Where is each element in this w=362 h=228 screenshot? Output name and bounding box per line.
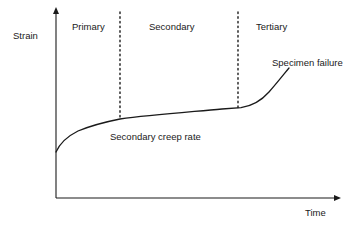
x-axis (56, 195, 341, 201)
annotation-specimen-failure: Specimen failure (272, 58, 343, 68)
x-axis-label: Time (305, 208, 326, 218)
x-axis-arrowhead (334, 195, 341, 201)
annotation-secondary-creep-rate: Secondary creep rate (110, 132, 201, 142)
y-axis (53, 7, 59, 198)
stage-label-primary: Primary (72, 22, 105, 32)
stage-label-tertiary: Tertiary (256, 22, 287, 32)
creep-curve-figure: Strain Time Primary Secondary Tertiary S… (0, 0, 362, 228)
y-axis-arrowhead (53, 7, 59, 14)
creep-curve-svg (0, 0, 362, 228)
y-axis-label: Strain (13, 31, 38, 41)
stage-label-secondary: Secondary (149, 22, 194, 32)
